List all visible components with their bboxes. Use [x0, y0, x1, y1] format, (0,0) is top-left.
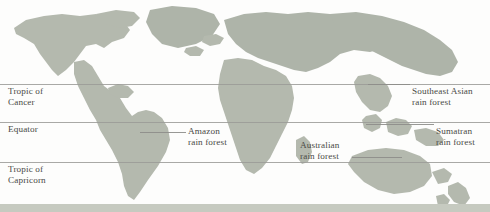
label-southeast-asian-rain-forest: Southeast Asian rain forest: [412, 86, 473, 107]
world-rainforest-map: Tropic of Cancer Equator Tropic of Capri…: [0, 0, 490, 212]
leader-line-amazon-rain-forest: [140, 132, 186, 133]
latitude-line-tropic-of-capricorn: [0, 162, 490, 163]
label-amazon-rain-forest: Amazon rain forest: [188, 126, 227, 147]
latitude-label-equator: Equator: [8, 124, 38, 135]
latitude-line-tropic-of-cancer: [0, 84, 490, 85]
landmass-group: [0, 6, 490, 212]
leader-line-southeast-asian-rain-forest: [368, 84, 410, 85]
latitude-label-tropic-of-cancer: Tropic of Cancer: [8, 86, 43, 107]
leader-line-sumatran-rain-forest: [366, 124, 434, 125]
label-sumatran-rain-forest: Sumatran rain forest: [436, 126, 475, 147]
latitude-line-equator: [0, 122, 490, 123]
latitude-label-tropic-of-capricorn: Tropic of Capricorn: [8, 164, 46, 185]
label-australian-rain-forest: Australian rain forest: [300, 140, 339, 161]
leader-line-australian-rain-forest: [352, 157, 402, 158]
